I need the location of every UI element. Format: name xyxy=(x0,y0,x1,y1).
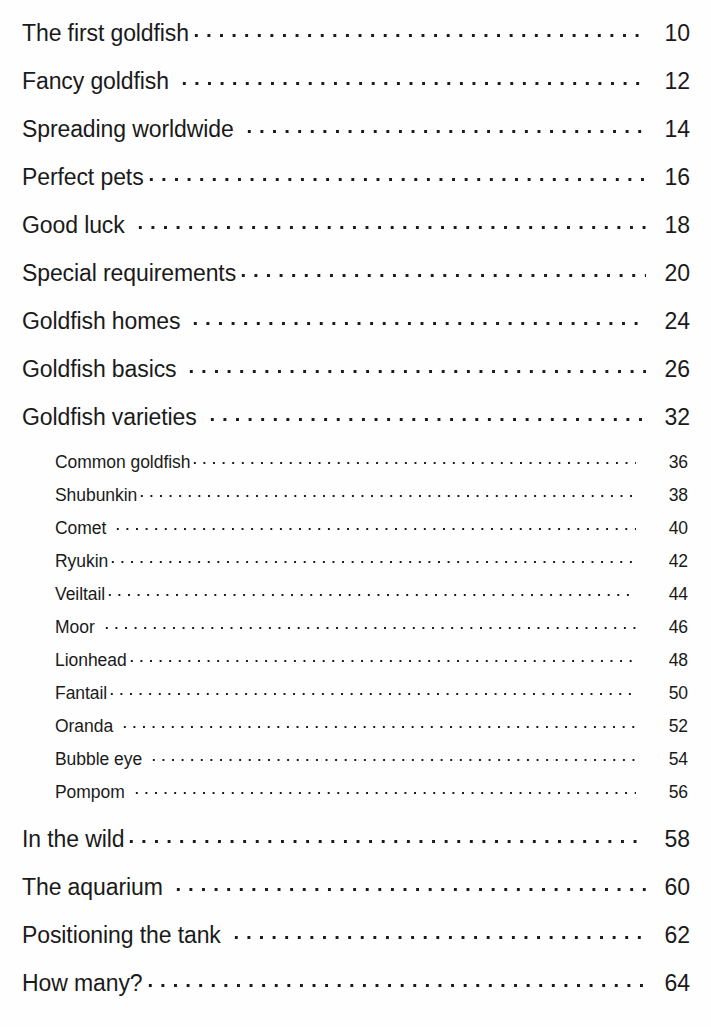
dot-leader xyxy=(190,450,636,468)
dot-leader xyxy=(125,824,646,847)
dot-leader xyxy=(144,968,646,991)
toc-page-number: 32 xyxy=(660,404,690,431)
toc-entry[interactable]: The first goldfish10 xyxy=(0,18,711,66)
toc-entry[interactable]: How many?64 xyxy=(0,968,711,1016)
toc-entry-title: The aquarium xyxy=(22,874,163,901)
toc-entry-title: Veiltail xyxy=(55,584,105,605)
dot-leader xyxy=(237,258,646,281)
toc-entry-title: Bubble eye xyxy=(55,749,142,770)
toc-page-number: 18 xyxy=(660,212,690,239)
toc-entry-title: Special requirements xyxy=(22,260,236,287)
toc-entry-title: Good luck xyxy=(22,212,125,239)
toc-entry[interactable]: Perfect pets16 xyxy=(0,162,711,210)
dot-leader xyxy=(134,210,646,233)
toc-entry[interactable]: Goldfish varieties32 xyxy=(0,402,711,450)
toc-entry-title: Oranda xyxy=(55,716,113,737)
toc-entry-title: Goldfish basics xyxy=(22,356,176,383)
toc-page-number: 24 xyxy=(660,308,690,335)
dot-leader xyxy=(108,549,636,567)
dot-leader xyxy=(127,648,636,666)
dot-leader xyxy=(120,714,636,732)
toc-sub-entry[interactable]: Ryukin42 xyxy=(0,549,711,582)
toc-page-number: 54 xyxy=(664,749,688,770)
toc-page-number: 12 xyxy=(660,68,690,95)
toc-sub-entry[interactable]: Fantail50 xyxy=(0,681,711,714)
toc-entry-title: Comet xyxy=(55,518,106,539)
toc-page-number: 38 xyxy=(664,485,688,506)
toc-entry-title: Fantail xyxy=(55,683,107,704)
dot-leader xyxy=(107,681,636,699)
toc-page-number: 20 xyxy=(660,260,690,287)
toc-entry-title: Goldfish varieties xyxy=(22,404,197,431)
toc-entry[interactable]: Positioning the tank62 xyxy=(0,920,711,968)
toc-entry[interactable]: Goldfish basics26 xyxy=(0,354,711,402)
dot-leader xyxy=(190,18,646,41)
dot-leader xyxy=(113,516,636,534)
toc-page-number: 46 xyxy=(664,617,688,638)
toc-page-number: 10 xyxy=(660,20,690,47)
dot-leader xyxy=(137,483,636,501)
dot-leader xyxy=(206,402,646,425)
dot-leader xyxy=(172,872,646,895)
dot-leader xyxy=(102,615,636,633)
top-spacer xyxy=(0,0,711,18)
toc-sub-entry[interactable]: Shubunkin38 xyxy=(0,483,711,516)
toc-page-number: 40 xyxy=(664,518,688,539)
toc-sub-entry[interactable]: Comet40 xyxy=(0,516,711,549)
toc-sub-entry[interactable]: Veiltail44 xyxy=(0,582,711,615)
toc-entry-title: Common goldfish xyxy=(55,452,190,473)
dot-leader xyxy=(230,920,646,943)
toc-page-number: 56 xyxy=(664,782,688,803)
toc-page-number: 36 xyxy=(664,452,688,473)
sub-section-spacer xyxy=(0,813,711,824)
toc-sub-entry[interactable]: Bubble eye54 xyxy=(0,747,711,780)
dot-leader xyxy=(149,747,636,765)
toc-entry[interactable]: Good luck18 xyxy=(0,210,711,258)
table-of-contents-page: The first goldfish10Fancy goldfish12Spre… xyxy=(0,0,711,1027)
toc-page-number: 58 xyxy=(660,826,690,853)
toc-page-number: 16 xyxy=(660,164,690,191)
toc-entry-title: Positioning the tank xyxy=(22,922,221,949)
toc-entry[interactable]: Spreading worldwide14 xyxy=(0,114,711,162)
toc-entry-title: Ryukin xyxy=(55,551,108,572)
toc-entry-title: Perfect pets xyxy=(22,164,144,191)
toc-sub-entry[interactable]: Common goldfish36 xyxy=(0,450,711,483)
toc-sub-entry[interactable]: Pompom56 xyxy=(0,780,711,813)
toc-entry-title: Lionhead xyxy=(55,650,127,671)
toc-entry[interactable]: Fancy goldfish12 xyxy=(0,66,711,114)
toc-entry[interactable]: In the wild58 xyxy=(0,824,711,872)
toc-sub-section-goldfish-varieties: Common goldfish36Shubunkin38Comet40Ryuki… xyxy=(0,450,711,813)
toc-entry-title: Shubunkin xyxy=(55,485,137,506)
toc-entry-title: The first goldfish xyxy=(22,20,189,47)
toc-page-number: 52 xyxy=(664,716,688,737)
toc-main-section-bottom: In the wild58The aquarium60Positioning t… xyxy=(0,824,711,1016)
toc-page-number: 60 xyxy=(660,874,690,901)
dot-leader xyxy=(189,306,646,329)
toc-entry-title: Moor xyxy=(55,617,95,638)
toc-entry-title: Goldfish homes xyxy=(22,308,180,335)
dot-leader xyxy=(145,162,646,185)
toc-entry[interactable]: Goldfish homes24 xyxy=(0,306,711,354)
toc-page-number: 42 xyxy=(664,551,688,572)
toc-page-number: 64 xyxy=(660,970,690,997)
toc-page-number: 44 xyxy=(664,584,688,605)
toc-entry[interactable]: The aquarium60 xyxy=(0,872,711,920)
toc-page-number: 50 xyxy=(664,683,688,704)
dot-leader xyxy=(178,66,646,89)
toc-entry-title: How many? xyxy=(22,970,143,997)
toc-page-number: 14 xyxy=(660,116,690,143)
toc-entry[interactable]: Special requirements20 xyxy=(0,258,711,306)
dot-leader xyxy=(132,780,636,798)
toc-page-number: 48 xyxy=(664,650,688,671)
toc-entry-title: Pompom xyxy=(55,782,125,803)
toc-sub-entry[interactable]: Lionhead48 xyxy=(0,648,711,681)
dot-leader xyxy=(185,354,646,377)
toc-entry-title: Spreading worldwide xyxy=(22,116,234,143)
dot-leader xyxy=(243,114,646,137)
toc-sub-entry[interactable]: Moor46 xyxy=(0,615,711,648)
toc-page-number: 62 xyxy=(660,922,690,949)
toc-entry-title: In the wild xyxy=(22,826,124,853)
toc-sub-entry[interactable]: Oranda52 xyxy=(0,714,711,747)
toc-entry-title: Fancy goldfish xyxy=(22,68,169,95)
toc-page-number: 26 xyxy=(660,356,690,383)
